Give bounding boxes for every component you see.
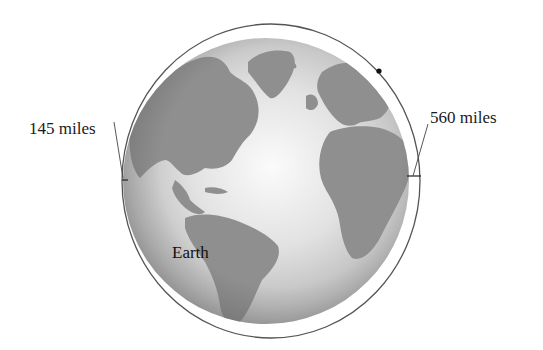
orbit-diagram: 145 miles 560 miles Earth (0, 0, 543, 350)
apogee-distance-label: 560 miles (430, 109, 497, 126)
perigee-distance-label: 145 miles (29, 120, 96, 137)
apogee-leader-line (413, 124, 428, 176)
earth-label: Earth (172, 244, 209, 261)
diagram-canvas (0, 0, 543, 350)
earth-globe (123, 38, 411, 324)
satellite-dot (376, 68, 381, 73)
perigee-leader-line (114, 122, 123, 178)
